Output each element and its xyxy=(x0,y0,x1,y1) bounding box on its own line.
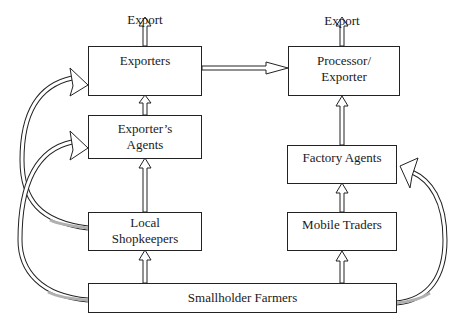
node-agents-label-line2: Agents xyxy=(127,137,164,153)
node-shopkeepers-label-line1: Local xyxy=(130,215,160,231)
node-exporters-label: Exporters xyxy=(120,53,171,69)
arrow-factory-to-processor xyxy=(336,96,348,145)
export-label-left: Export xyxy=(105,12,185,28)
node-processor-label-line1: Processor/ xyxy=(317,53,371,69)
arrow-exporters-to-processor xyxy=(202,62,288,74)
node-mobile-traders: Mobile Traders xyxy=(287,212,397,251)
node-factory-agents: Factory Agents xyxy=(287,145,397,184)
curved-arrow-farmers-to-agents xyxy=(20,131,88,300)
node-smallholder-farmers: Smallholder Farmers xyxy=(88,283,397,313)
node-farmers-label: Smallholder Farmers xyxy=(188,290,297,306)
node-exporters: Exporters xyxy=(88,46,202,96)
arrow-farmers-to-mobile xyxy=(336,251,348,283)
node-factory-label: Factory Agents xyxy=(302,150,381,166)
node-processor-label-line2: Exporter xyxy=(321,69,366,85)
node-mobile-label: Mobile Traders xyxy=(302,217,382,233)
curved-arrow-farmers-to-factory xyxy=(396,158,445,303)
export-label-right: Export xyxy=(302,13,382,29)
node-local-shopkeepers: Local Shopkeepers xyxy=(88,212,202,251)
arrow-shopkeepers-to-agents xyxy=(139,158,151,212)
node-agents-label-line1: Exporter’s xyxy=(118,121,173,137)
node-exporters-agents: Exporter’s Agents xyxy=(88,115,202,159)
node-processor-exporter: Processor/ Exporter xyxy=(288,46,400,96)
arrow-farmers-to-shopkeepers xyxy=(139,250,151,283)
node-shopkeepers-label-line2: Shopkeepers xyxy=(112,231,178,247)
arrow-agents-to-exporters xyxy=(139,95,151,115)
arrow-mobile-to-factory xyxy=(336,183,348,212)
